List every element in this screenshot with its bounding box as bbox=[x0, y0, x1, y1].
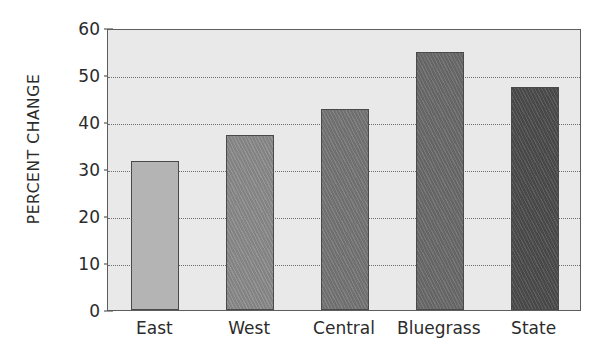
y-axis-title: PERCENT CHANGE bbox=[25, 19, 43, 279]
y-tick-label: 40 bbox=[58, 113, 100, 133]
y-tick-label: 10 bbox=[58, 254, 100, 274]
x-tick-label-central: Central bbox=[313, 318, 375, 338]
x-axis-tick-labels: EastWestCentralBluegrassState bbox=[107, 318, 581, 350]
y-tick-label: 0 bbox=[58, 301, 100, 321]
bar-state bbox=[511, 87, 559, 310]
y-tick-label: 20 bbox=[58, 207, 100, 227]
bar-east bbox=[131, 161, 179, 310]
x-tick-label-east: East bbox=[136, 318, 173, 338]
y-tick-label: 50 bbox=[58, 66, 100, 86]
bar-west bbox=[226, 135, 274, 310]
x-tick-label-west: West bbox=[228, 318, 270, 338]
bar-chart: PERCENT CHANGE 0102030405060 EastWestCen… bbox=[0, 0, 591, 362]
x-tick-label-bluegrass: Bluegrass bbox=[397, 318, 481, 338]
plot-area bbox=[107, 29, 581, 311]
x-tick-label-state: State bbox=[511, 318, 556, 338]
bar-central bbox=[321, 109, 369, 310]
bar-bluegrass bbox=[416, 52, 464, 310]
bars-group bbox=[108, 30, 580, 310]
y-tick-label: 60 bbox=[58, 19, 100, 39]
y-tick-label: 30 bbox=[58, 160, 100, 180]
y-axis-tick-labels: 0102030405060 bbox=[58, 0, 100, 362]
